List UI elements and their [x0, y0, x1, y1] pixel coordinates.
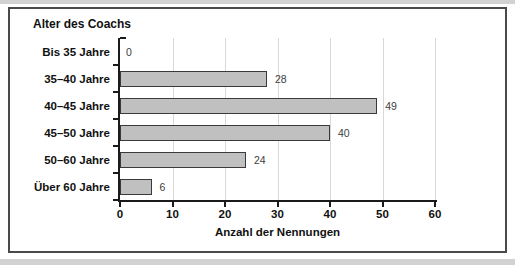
- bar-value-label: 24: [254, 146, 266, 173]
- x-axis-tick: [277, 202, 279, 207]
- scan-edge-top: [0, 0, 515, 4]
- x-axis-tick: [329, 202, 331, 207]
- bar-value-label: 0: [126, 38, 132, 65]
- y-axis-tick: [113, 172, 118, 174]
- x-axis-tick-label: 10: [166, 208, 179, 220]
- bar-value-label: 6: [160, 173, 166, 200]
- bar: [120, 71, 267, 87]
- x-axis-tick-label: 30: [271, 208, 284, 220]
- bar-value-label: 49: [385, 92, 397, 119]
- category-label: 45–50 Jahre: [10, 119, 110, 146]
- x-axis-tick-labels: 0102030405060: [120, 208, 435, 222]
- bar-value-label: 28: [275, 65, 287, 92]
- y-axis-tick: [113, 199, 118, 201]
- plot-area: 0284940246: [120, 38, 435, 200]
- x-axis-tick: [172, 202, 174, 207]
- y-axis-tick: [113, 118, 118, 120]
- bar: [120, 179, 152, 195]
- x-axis-tick-label: 50: [376, 208, 389, 220]
- category-label: Bis 35 Jahre: [10, 38, 110, 65]
- bar: [120, 125, 330, 141]
- gridline: [173, 38, 174, 200]
- x-axis-tick: [119, 202, 121, 207]
- chart-frame: Alter des Coachs Bis 35 Jahre35–40 Jahre…: [8, 7, 507, 253]
- gridline: [330, 38, 331, 200]
- bar: [120, 98, 377, 114]
- x-axis-tick-label: 0: [117, 208, 123, 220]
- y-axis-tick: [113, 91, 118, 93]
- x-axis-tick: [224, 202, 226, 207]
- bar-value-label: 40: [338, 119, 350, 146]
- category-labels: Bis 35 Jahre35–40 Jahre40–45 Jahre45–50 …: [10, 38, 110, 200]
- x-axis-title: Anzahl der Nennungen: [120, 226, 435, 238]
- category-label: 35–40 Jahre: [10, 65, 110, 92]
- figure-image: Alter des Coachs Bis 35 Jahre35–40 Jahre…: [0, 0, 515, 265]
- gridline: [225, 38, 226, 200]
- x-axis-tick-label: 40: [324, 208, 337, 220]
- y-axis-tick: [113, 145, 118, 147]
- gridline: [278, 38, 279, 200]
- category-label: 40–45 Jahre: [10, 92, 110, 119]
- x-axis-tick: [382, 202, 384, 207]
- scan-edge-bottom: [0, 259, 515, 265]
- category-label: 50–60 Jahre: [10, 146, 110, 173]
- gridline: [435, 38, 436, 200]
- gridline: [383, 38, 384, 200]
- x-axis-tick: [434, 202, 436, 207]
- bar: [120, 152, 246, 168]
- x-axis-tick-label: 60: [429, 208, 442, 220]
- category-label: Über 60 Jahre: [10, 173, 110, 200]
- x-axis-tick-label: 20: [219, 208, 232, 220]
- y-axis-tick: [113, 64, 118, 66]
- chart-title: Alter des Coachs: [33, 17, 131, 31]
